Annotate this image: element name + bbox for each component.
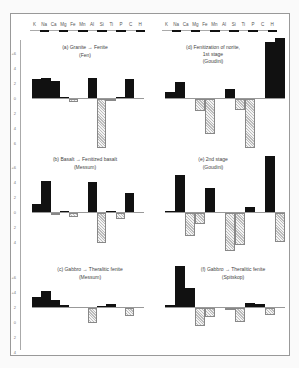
bar-mg [195,213,205,224]
y-tick: +4 [4,290,16,295]
bar-p [116,97,125,99]
y-tick: 4 [4,126,16,131]
bar-c [265,308,275,315]
zero-line [165,98,285,99]
element-label: H [136,22,145,27]
bar-ca [51,300,60,308]
bar-fe [205,188,215,212]
bar-c [125,308,134,316]
element-underline [116,30,126,32]
bar-na [41,181,50,213]
bar-k [32,79,41,98]
panel-d-subtitle: (Goudini) [158,58,268,65]
element-underline [210,30,220,32]
element-label: Fe [68,22,77,27]
element-label: Ca [49,22,58,27]
bar-p [255,304,265,307]
bar-k [165,211,175,213]
element-underline [248,30,258,32]
panel-a-subtitle: (Fen) [30,52,140,59]
y-tick: +6 [4,51,16,56]
element-underline [172,30,182,32]
element-label: Mn [210,22,219,27]
bar-mg [60,97,69,99]
bar-si [235,213,245,245]
element-underline [229,30,239,32]
bar-mg [195,308,205,326]
element-underline [78,30,88,32]
bar-ti [245,207,255,212]
y-tick: 0 [4,96,16,101]
y-axis-line [20,40,21,350]
element-underline [49,30,59,32]
bar-h [275,38,285,98]
bar-mg [195,99,205,111]
y-tick: 4 [4,240,16,245]
y-tick: +6 [4,275,16,280]
bar-ca [51,81,60,98]
element-label: Fe [200,22,209,27]
panel-c-subtitle: (Messum) [35,274,145,281]
element-label: C [126,22,135,27]
y-tick: 0 [4,320,16,325]
bar-h [275,213,285,242]
element-underline [191,30,201,32]
element-label: C [258,22,267,27]
bar-c [125,79,134,99]
element-label: H [268,22,277,27]
bar-si [235,99,245,110]
bar-k [32,297,41,307]
y-tick: 4 [4,350,16,355]
bar-al [225,89,235,98]
element-label: Ti [239,22,248,27]
panel-f-subtitle: (Spitskop) [178,274,288,281]
bar-ca [51,213,60,215]
bar-al [225,308,235,310]
panel-b-title: (b) Basalt → Fenitized basalt [30,156,140,163]
element-underline [258,30,268,32]
bar-na [41,291,50,308]
element-underline [88,30,98,32]
bar-mg [60,211,69,212]
bar-k [165,305,175,307]
bar-al [225,213,235,251]
y-tick: 2 [4,81,16,86]
bar-ti [106,99,115,101]
y-tick: 2 [4,225,16,230]
bar-p [116,213,125,219]
y-tick: 2 [4,335,16,340]
bar-fe [205,99,215,134]
bar-ti [106,211,115,212]
bar-si [97,213,106,243]
element-label: P [248,22,257,27]
y-tick: 6 [4,141,16,146]
element-label: Na [40,22,49,27]
bar-k [32,204,41,212]
panel-d-title2: 1st stage [158,51,268,58]
panel-e-title: (e) 2nd stage [158,156,268,163]
bar-ti [106,304,115,307]
element-underline [181,30,191,32]
element-label: Mn [78,22,87,27]
element-label: Ti [107,22,116,27]
element-underline [40,30,50,32]
bar-na [175,82,185,99]
element-underline [136,30,146,32]
bar-al [88,308,97,323]
element-label: Si [97,22,106,27]
bar-fe [205,308,215,317]
y-tick: 4 [4,180,16,185]
element-label: P [116,22,125,27]
bar-si [97,306,106,308]
panel-d-title: (d) Fenitization of norite, [158,44,268,51]
element-label: Al [220,22,229,27]
element-underline [30,30,40,32]
bar-c [125,193,134,212]
bar-al [88,182,97,212]
y-tick: 0 [4,210,16,215]
y-tick: 4 [4,66,16,71]
panel-c-title: (c) Gabbro → Theralitic fenite [35,266,145,273]
element-underline [239,30,249,32]
element-label: Al [88,22,97,27]
element-underline [268,30,278,32]
